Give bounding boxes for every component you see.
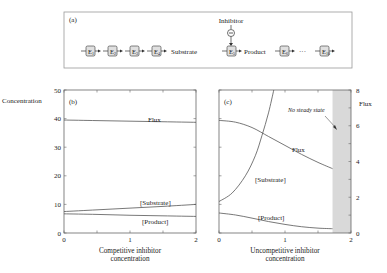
x-tick-label: 2 xyxy=(194,236,198,244)
enzyme-E4: E4 xyxy=(152,46,161,56)
right-y-tick-label: 6 xyxy=(356,122,360,130)
x-tick-label: 0 xyxy=(62,236,66,244)
substrate-label: Substrate xyxy=(171,48,197,56)
plot-frame xyxy=(64,90,196,233)
panel-c-label: (c) xyxy=(224,98,232,106)
x-tick-label: 2 xyxy=(349,236,353,244)
series-product-line xyxy=(64,214,196,217)
enzyme-E1: E1 xyxy=(86,46,95,56)
x-axis-label-line2: concentration xyxy=(265,255,305,263)
enzyme-E6: E6 xyxy=(280,46,289,56)
y-tick-label: 50 xyxy=(54,87,62,95)
x-axis-label-line2: concentration xyxy=(110,255,150,263)
substrate-series-label: [Substrate] xyxy=(140,199,171,207)
flux-label: Flux xyxy=(148,116,161,124)
y-axis-label: Concentration xyxy=(2,97,42,105)
chart-b: 01201020304050Competitive inhibitorconce… xyxy=(2,87,198,264)
enzyme-E3: E3 xyxy=(130,46,139,56)
right-y-axis-label: Flux xyxy=(359,100,372,108)
no-steady-state-label: No steady state xyxy=(287,107,325,113)
panel-b-label: (b) xyxy=(69,98,78,106)
enzyme-E10: E10 xyxy=(320,46,330,56)
ellipsis: ··· xyxy=(299,48,306,56)
y-tick-label: 0 xyxy=(58,230,62,238)
flux-label: Flux xyxy=(292,146,305,154)
x-tick-label: 1 xyxy=(283,236,287,244)
pathway-frame xyxy=(64,12,352,68)
y-tick-label: 20 xyxy=(54,172,62,180)
enzyme-E2: E2 xyxy=(108,46,117,56)
x-axis-label: Competitive inhibitor xyxy=(99,247,162,255)
right-y-tick-label: 8 xyxy=(356,87,360,95)
y-tick-label: 30 xyxy=(54,144,62,152)
series-flux-line xyxy=(64,120,196,122)
product-label: Product xyxy=(244,48,266,56)
figure: (a) Inhibitor E1E2E3E4SubstrateE5Product… xyxy=(0,0,387,273)
y-tick-label: 40 xyxy=(54,115,62,123)
pathway-panel: (a) Inhibitor E1E2E3E4SubstrateE5Product… xyxy=(64,12,352,68)
right-y-tick-label: 0 xyxy=(356,230,360,238)
no-steady-state-region xyxy=(333,90,351,233)
chart-c: 01202468Uncompetitive inhibitorconcentra… xyxy=(217,87,372,264)
x-tick-label: 0 xyxy=(217,236,221,244)
x-axis-label: Uncompetitive inhibitor xyxy=(250,247,320,255)
series-substrate-line xyxy=(64,204,196,211)
substrate-series-label: [Substrate] xyxy=(255,176,286,184)
product-series-label: [Product] xyxy=(142,218,168,226)
product-series-label: [Product] xyxy=(258,214,284,222)
series-flux-line xyxy=(219,120,333,168)
y-tick-label: 10 xyxy=(54,201,62,209)
plot-frame xyxy=(219,90,351,233)
right-y-tick-label: 2 xyxy=(356,194,360,202)
panel-a-label: (a) xyxy=(69,16,77,24)
x-tick-label: 1 xyxy=(128,236,132,244)
series-substrate-line xyxy=(219,90,274,202)
right-y-tick-label: 4 xyxy=(356,158,360,166)
inhibitor-label: Inhibitor xyxy=(219,17,244,25)
enzyme-E5: E5 xyxy=(227,46,236,56)
